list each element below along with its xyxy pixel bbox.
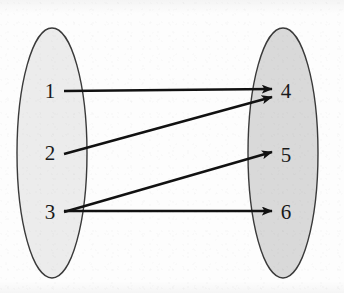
arrow-1-to-4	[64, 89, 272, 91]
node-label-5: 5	[281, 145, 292, 166]
node-label-6: 6	[281, 202, 292, 223]
node-label-1: 1	[45, 81, 56, 102]
node-label-3: 3	[45, 202, 56, 223]
node-label-2: 2	[45, 143, 56, 164]
arrow-3-to-5	[64, 152, 272, 212]
arrow-2-to-4	[64, 97, 272, 154]
node-label-4: 4	[281, 81, 292, 102]
diagram-canvas: 1 2 3 4 5 6	[0, 0, 344, 293]
